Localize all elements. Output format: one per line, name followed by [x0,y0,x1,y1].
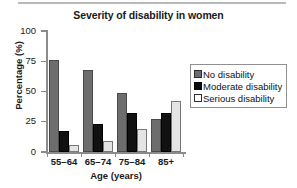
x-tick [149,153,150,157]
y-tick-label-50: 50 [2,85,36,96]
legend-label-no-disability: No disability [203,69,254,80]
x-tick [115,153,116,157]
y-tick-label-0: 0 [2,146,36,157]
y-tick-0 [41,151,46,152]
x-tick-label: 85+ [144,156,188,167]
bar [93,124,103,152]
plot-area [47,31,183,152]
bar [117,93,127,152]
bar [171,101,181,152]
bar [83,70,93,152]
bar [151,119,161,152]
y-tick-100 [41,30,46,31]
x-tick [81,153,82,157]
bar [69,145,79,152]
bar [59,131,69,152]
legend-item-no-disability: No disability [194,68,282,80]
legend-item-moderate-disability: Moderate disability [194,80,282,92]
legend-label-moderate-disability: Moderate disability [203,81,282,92]
legend-swatch-moderate-disability [194,82,202,90]
bar [137,129,147,152]
legend-swatch-serious-disability [194,94,202,102]
top-rule [18,2,286,4]
x-axis-title: Age (years) [46,170,186,181]
y-tick-25 [41,121,46,122]
y-tick-75 [41,61,46,62]
bar [127,113,137,152]
chart-figure: Severity of disability in women Percenta… [0,0,297,188]
y-tick-label-25: 25 [2,115,36,126]
x-tick [47,153,48,157]
bar [103,141,113,152]
y-tick-label-75: 75 [2,55,36,66]
chart-title: Severity of disability in women [0,9,297,21]
x-tick [183,153,184,157]
chart-legend: No disability Moderate disability Seriou… [190,64,287,108]
legend-label-serious-disability: Serious disability [203,93,274,104]
legend-item-serious-disability: Serious disability [194,92,282,104]
y-tick-50 [41,91,46,92]
bar [161,113,171,152]
y-axis-title: Percentage (%) [13,21,24,131]
y-tick-label-100: 100 [2,25,36,36]
legend-swatch-no-disability [194,70,202,78]
bar [49,60,59,152]
